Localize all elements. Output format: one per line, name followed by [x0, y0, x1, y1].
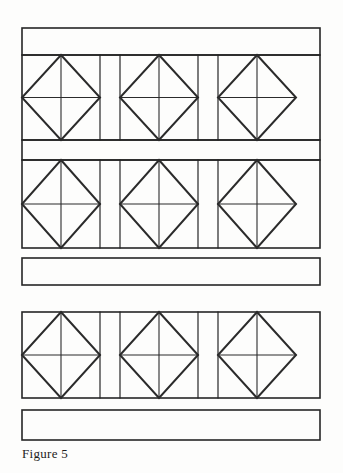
diamond-cell [22, 312, 100, 398]
bottom-band-outline [22, 410, 320, 440]
diamond-cell [218, 55, 296, 140]
spacer-cell [198, 160, 218, 248]
top-band [22, 28, 320, 55]
panel-row-1 [22, 55, 320, 140]
spacer-cell [100, 160, 120, 248]
figure-caption: Figure 5 [22, 446, 68, 462]
diamond-cell [120, 160, 198, 248]
bottom-band [22, 410, 320, 440]
free-band [22, 258, 320, 285]
panel-row-2 [22, 160, 320, 248]
mid-band-outline [22, 140, 320, 160]
spacer-cell [198, 312, 218, 398]
figure-container: Figure 5 [0, 0, 343, 473]
diamond-cell [120, 312, 198, 398]
figure-drawing [0, 0, 343, 473]
top-band-outline [22, 28, 320, 55]
mid-band [22, 140, 320, 160]
spacer-cell [100, 312, 120, 398]
panel-row-3 [22, 312, 320, 398]
free-band-outline [22, 258, 320, 285]
diamond-cell [22, 55, 100, 140]
spacer-cell [198, 55, 218, 140]
diamond-cell [120, 55, 198, 140]
spacer-cell [100, 55, 120, 140]
diamond-cell [218, 312, 296, 398]
diamond-cell [218, 160, 296, 248]
diamond-cell [22, 160, 100, 248]
